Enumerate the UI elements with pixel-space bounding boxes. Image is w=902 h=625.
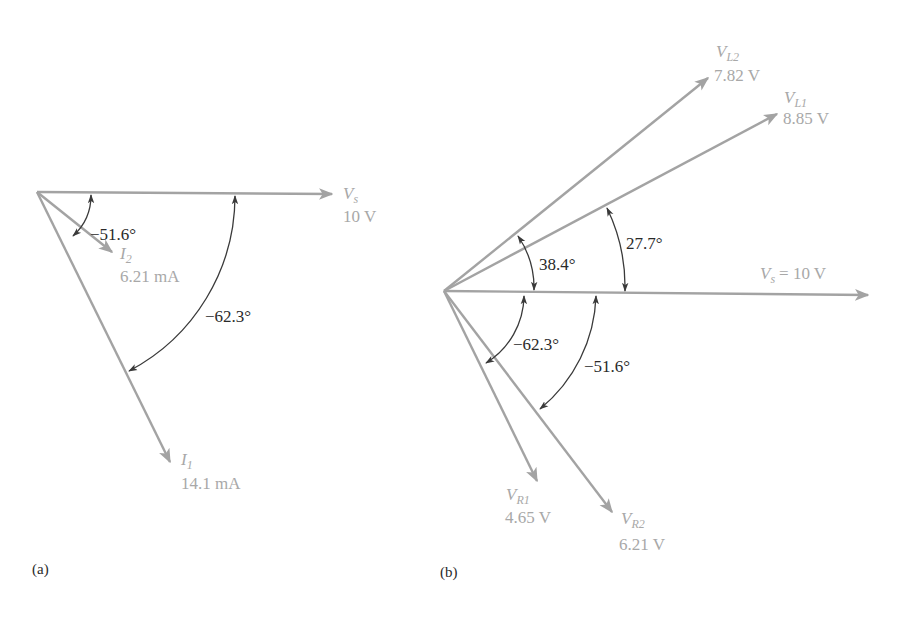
label-vs-a: Vs (343, 184, 358, 206)
value-vs-a: 10 V (343, 207, 377, 226)
label-vs-b: Vs= 10 V (760, 264, 827, 286)
label-vl2-b: VL2 (716, 42, 739, 64)
angle-label-vs-vr1-b: −62.3° (513, 335, 559, 354)
value-i2-a: 6.21 mA (120, 267, 180, 286)
vector-vl1-b (444, 114, 777, 291)
label-i1-a: I1 (180, 450, 193, 472)
angle-arc-vs-vl1-b (607, 208, 625, 291)
label-vr2-b: VR2 (621, 509, 645, 531)
panel-a: Vs 10 V I2 6.21 mA I1 14.1 mA −51.6° −62… (32, 184, 377, 578)
value-vl1-b: 8.85 V (783, 109, 830, 128)
panel-b: VL2 7.82 V VL1 8.85 V Vs= 10 V VR1 4.65 … (440, 42, 868, 581)
vector-vs-a (37, 192, 332, 194)
vector-vr1-b (444, 291, 537, 481)
angle-label-vs-i2-a: −51.6° (90, 225, 136, 244)
caption-b: (b) (440, 564, 458, 581)
angle-label-vs-vl1-b: 27.7° (626, 234, 663, 253)
angle-arc-vs-i2-a (73, 195, 91, 236)
value-i1-a: 14.1 mA (181, 474, 241, 493)
value-vr1-b: 4.65 V (505, 508, 552, 527)
vector-vs-b (444, 291, 868, 295)
label-vl1-b: VL1 (784, 88, 807, 110)
label-i2-a: I2 (119, 244, 132, 266)
angle-label-vs-vl2-b: 38.4° (539, 255, 576, 274)
caption-a: (a) (32, 561, 49, 578)
label-vr1-b: VR1 (506, 485, 530, 507)
value-vr2-b: 6.21 V (619, 535, 666, 554)
phasor-diagrams: Vs 10 V I2 6.21 mA I1 14.1 mA −51.6° −62… (0, 0, 902, 625)
vector-vr2-b (444, 291, 612, 512)
angle-label-vs-i1-a: −62.3° (205, 307, 251, 326)
value-vl2-b: 7.82 V (714, 66, 761, 85)
vector-vl2-b (444, 78, 708, 291)
angle-label-vs-vr2-b: −51.6° (584, 357, 630, 376)
